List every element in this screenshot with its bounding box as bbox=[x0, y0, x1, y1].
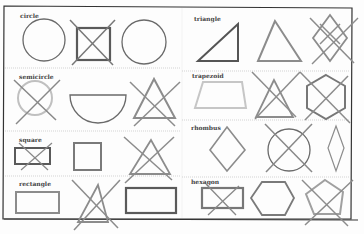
rectangle-shape bbox=[126, 188, 176, 213]
semicircle-shape bbox=[70, 95, 126, 123]
crossed-rectangle-shape bbox=[15, 143, 52, 170]
section-label-triangle: triangle bbox=[194, 15, 221, 22]
rhombus-shape bbox=[328, 126, 344, 171]
section-label-semicircle: semicircle bbox=[19, 73, 54, 80]
worksheet-drawing bbox=[0, 0, 364, 234]
worksheet-page: circle semicircle square rectangle trian… bbox=[0, 0, 364, 234]
section-label-square: square bbox=[19, 136, 42, 143]
rectangle-shape bbox=[16, 192, 59, 213]
square-shape bbox=[74, 143, 101, 170]
section-label-trapezoid: trapezoid bbox=[192, 72, 224, 79]
crossed-circle-shape bbox=[14, 80, 60, 124]
crossed-circle-shape bbox=[265, 124, 312, 172]
section-label-rhombus: rhombus bbox=[191, 124, 221, 131]
section-label-hexagon: hexagon bbox=[191, 178, 219, 185]
triangle-shape bbox=[258, 21, 301, 61]
crossed-square-shape bbox=[70, 20, 115, 65]
worksheet-frame: circle semicircle square rectangle trian… bbox=[0, 0, 364, 234]
crossed-hexagon-shape bbox=[300, 72, 350, 123]
circle-shape bbox=[23, 19, 65, 61]
right-triangle-shape bbox=[198, 24, 238, 61]
section-label-rectangle: rectangle bbox=[19, 180, 51, 187]
crossed-rectangle-shape bbox=[202, 184, 243, 215]
crossed-triangle-shape bbox=[72, 180, 120, 230]
crossed-triangle-shape bbox=[252, 72, 300, 119]
circle-shape bbox=[122, 20, 166, 64]
section-label-circle: circle bbox=[20, 12, 39, 19]
rhombus-shape bbox=[210, 127, 245, 171]
trapezoid-shape bbox=[195, 82, 246, 108]
crossed-triangle-shape bbox=[130, 79, 180, 126]
hexagon-shape bbox=[251, 182, 294, 215]
crossed-rhombus-pattern-shape bbox=[310, 15, 358, 64]
